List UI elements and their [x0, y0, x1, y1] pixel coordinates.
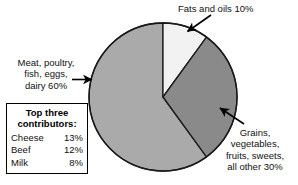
- contributor-name: Cheese: [11, 132, 44, 144]
- top-contributors-box: Top three contributors: Cheese 13% Beef …: [6, 103, 88, 174]
- contributor-value: 8%: [69, 157, 83, 169]
- top-contributors-title: Top three contributors:: [11, 107, 83, 129]
- contributor-value: 12%: [64, 144, 83, 156]
- contributor-name: Milk: [11, 157, 28, 169]
- table-row: Beef 12%: [11, 144, 83, 156]
- arrow-grains: [220, 108, 244, 124]
- contributor-name: Beef: [11, 144, 31, 156]
- pie-chart-figure: Fats and oils 10% Meat, poultry, fish, e…: [0, 0, 298, 185]
- slice-label-grains: Grains, vegetables, fruits, sweets, all …: [212, 127, 298, 172]
- table-row: Milk 8%: [11, 157, 83, 169]
- arrow-fats: [188, 15, 212, 32]
- contributor-value: 13%: [64, 132, 83, 144]
- slice-label-fats: Fats and oils 10%: [178, 3, 254, 14]
- slice-label-meat: Meat, poultry, fish, eggs, dairy 60%: [4, 57, 88, 91]
- table-row: Cheese 13%: [11, 132, 83, 144]
